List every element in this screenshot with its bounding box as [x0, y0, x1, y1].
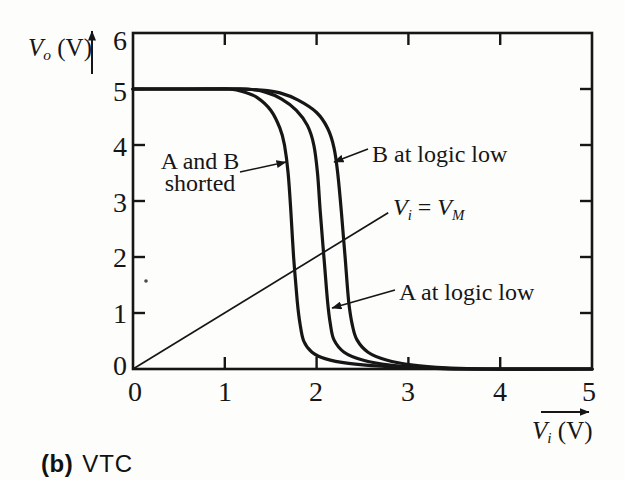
x-tick-label-5: 5	[582, 378, 596, 406]
b-at-logic-low-label: B at logic low	[372, 143, 507, 165]
tick-marks	[133, 33, 592, 369]
a-and-b-shorted-label: A and Bshorted	[161, 150, 240, 194]
caption-label: VTC	[82, 450, 133, 477]
a-and-b-shorted-arrow	[240, 162, 286, 172]
plot-border	[133, 33, 592, 369]
x-tick-label-4: 4	[493, 378, 507, 406]
x-tick-label-0: 0	[128, 378, 142, 406]
x-tick-label-3: 3	[401, 378, 415, 406]
a-at-logic-low-arrow	[332, 290, 395, 308]
a-at-logic-low-label: A at logic low	[399, 281, 534, 303]
caption-prefix: (b)	[41, 450, 73, 477]
y-tick-label-3: 3	[113, 189, 127, 217]
y-tick-label-4: 4	[113, 133, 127, 161]
x-axis-label: Vi (V)	[532, 418, 593, 446]
scan-dot-artifact	[144, 279, 148, 283]
y-tick-label-6: 6	[113, 27, 127, 55]
y-tick-label-5: 5	[113, 78, 127, 106]
vtc-figure: 0123456012345A and BshortedB at logic lo…	[0, 0, 625, 480]
figure-caption: (b)VTC	[41, 450, 133, 478]
vtc-plot-svg	[0, 0, 625, 480]
y-tick-label-2: 2	[113, 244, 127, 272]
vi-equals-vm-label: Vi = VM	[393, 196, 464, 225]
unity-line	[133, 213, 388, 369]
y-tick-label-1: 1	[113, 300, 127, 328]
x-tick-label-1: 1	[218, 378, 232, 406]
b-at-logic-low-arrow	[334, 149, 368, 162]
x-tick-label-2: 2	[309, 378, 323, 406]
y-axis-label: Vo (V)	[28, 35, 92, 63]
y-tick-label-0: 0	[113, 352, 127, 380]
